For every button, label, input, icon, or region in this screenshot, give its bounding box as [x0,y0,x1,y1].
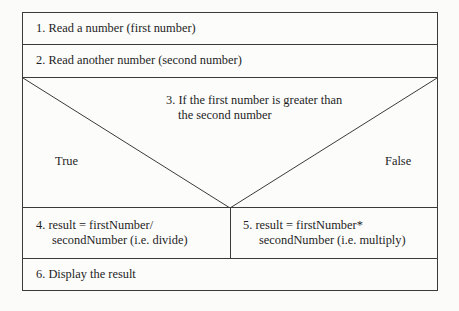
step-1-read-first-number: 1. Read a number (first number) [23,13,437,45]
step-2-read-second-number: 2. Read another number (second number) [23,45,437,78]
step-6-display-result: 6. Display the result [23,259,437,292]
branch-row: 4. result = firstNumber/ secondNumber (i… [23,208,437,259]
step-4-line-2: secondNumber (i.e. divide) [36,233,188,248]
step-6-text: 6. Display the result [36,267,136,282]
condition-text: 3. If the first number is greater than t… [166,93,342,123]
step-5-line-2: secondNumber (i.e. multiply) [243,233,406,248]
false-branch-label: False [385,154,411,169]
step-4-line-1: 4. result = firstNumber/ [36,218,153,232]
true-branch-label: True [55,154,78,169]
step-2-text: 2. Read another number (second number) [36,53,242,68]
condition-line-2: the second number [166,108,342,123]
step-4-divide: 4. result = firstNumber/ secondNumber (i… [23,208,231,258]
condition-line-1: 3. If the first number is greater than [166,93,342,107]
nassi-shneiderman-diagram: 1. Read a number (first number) 2. Read … [22,12,438,291]
step-1-text: 1. Read a number (first number) [36,21,196,36]
step-4-text: 4. result = firstNumber/ secondNumber (i… [36,218,188,248]
step-3-condition: 3. If the first number is greater than t… [23,78,437,208]
step-5-text: 5. result = firstNumber* secondNumber (i… [243,218,406,248]
step-5-line-1: 5. result = firstNumber* [243,218,363,232]
step-5-multiply: 5. result = firstNumber* secondNumber (i… [231,208,437,258]
